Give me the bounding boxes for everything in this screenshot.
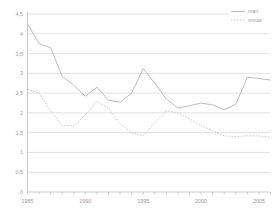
x-axis-ticks	[28, 192, 271, 195]
y-tick-label: 3,5	[16, 51, 24, 57]
gridlines	[28, 14, 271, 172]
series-line-man	[28, 24, 271, 110]
x-tick-label: 2000	[195, 198, 207, 204]
y-tick-label: 3	[20, 70, 23, 76]
series-line-vrouw	[28, 89, 271, 137]
line-chart: 4,543,532,521,510,50 1985199019952000200…	[0, 0, 278, 212]
x-tick-label: 1995	[137, 198, 149, 204]
chart-container: 4,543,532,521,510,50 1985199019952000200…	[0, 0, 278, 212]
x-tick-label: 1990	[79, 198, 91, 204]
y-axis-tick-labels: 4,543,532,521,510,50	[16, 11, 24, 195]
x-axis-tick-labels: 19851990199520002005	[22, 198, 265, 204]
y-tick-label: 0,5	[16, 169, 24, 175]
y-tick-label: 1,5	[16, 130, 24, 136]
y-tick-label: 4	[20, 31, 23, 37]
y-tick-label: 2	[20, 110, 23, 116]
x-tick-label: 1985	[22, 198, 34, 204]
y-tick-label: 0	[20, 189, 23, 195]
y-tick-label: 4,5	[16, 11, 24, 17]
legend: man vrouw	[228, 5, 276, 25]
y-tick-label: 2,5	[16, 90, 24, 96]
y-tick-label: 1	[20, 149, 23, 155]
legend-label-vrouw: vrouw	[248, 17, 262, 23]
legend-label-man: man	[248, 8, 258, 14]
x-tick-label: 2005	[253, 198, 265, 204]
